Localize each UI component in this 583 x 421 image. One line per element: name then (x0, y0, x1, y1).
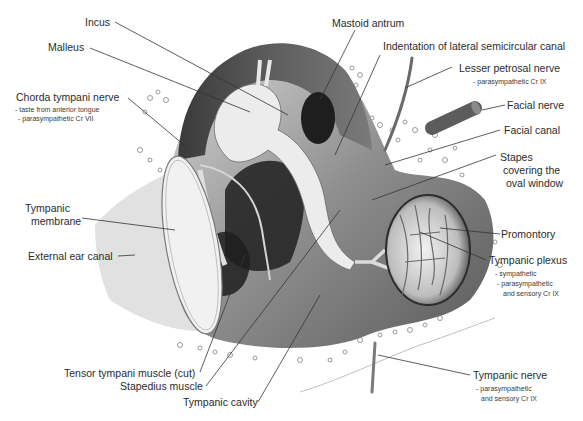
label-tympanic-membrane-2: membrane (31, 215, 81, 227)
label-stapedius-muscle: Stapedius muscle (120, 380, 203, 392)
label-tympanic-plexus: Tympanic plexus (489, 254, 567, 266)
label-tympanic-membrane-1: Tympanic (25, 202, 70, 214)
note-plexus-1: - sympathetic (495, 269, 537, 278)
note-lesser-petrosal: - parasympathetic Cr IX (473, 77, 547, 86)
label-mastoid-antrum: Mastoid antrum (332, 17, 404, 29)
facial-nerve (432, 108, 475, 128)
lesser-petrosal-nerve (385, 58, 412, 150)
label-indentation-lateral-canal: Indentation of lateral semicircular cana… (383, 40, 565, 52)
label-stapes-1: Stapes (500, 151, 533, 163)
note-chorda-2: - parasympathetic Cr VII (18, 114, 93, 123)
label-incus: Incus (85, 16, 110, 28)
note-tympanic-nerve-2: and sensory Cr IX (481, 394, 537, 403)
note-tympanic-nerve-1: - parasympathetic (476, 384, 532, 393)
note-plexus-2: - parasympathetic (497, 279, 553, 288)
label-stapes-3: oval window (506, 177, 563, 189)
label-malleus: Malleus (48, 41, 84, 53)
note-plexus-3: and sensory Cr IX (503, 289, 559, 298)
label-facial-nerve: Facial nerve (507, 99, 564, 111)
label-facial-canal: Facial canal (504, 124, 560, 136)
label-stapes-2: covering the (503, 164, 560, 176)
label-tympanic-nerve: Tympanic nerve (473, 369, 547, 381)
note-chorda-1: - taste from anterior tongue (15, 105, 99, 114)
label-tympanic-cavity: Tympanic cavity (183, 396, 258, 408)
tympanic-nerve (372, 343, 375, 392)
promontory (386, 195, 470, 305)
mastoid-antrum-opening (301, 92, 335, 144)
label-promontory: Promontory (501, 228, 555, 240)
label-lesser-petrosal-nerve: Lesser petrosal nerve (459, 62, 560, 74)
label-chorda-tympani-nerve: Chorda tympani nerve (16, 91, 119, 103)
label-external-ear-canal: External ear canal (28, 250, 113, 262)
label-tensor-tympani: Tensor tympani muscle (cut) (64, 367, 195, 379)
